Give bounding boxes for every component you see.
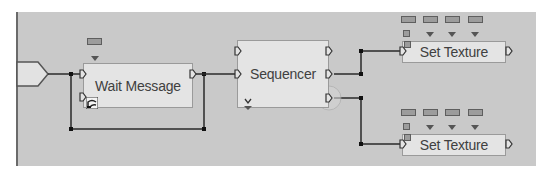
input-port[interactable] bbox=[234, 69, 242, 79]
event-trigger[interactable] bbox=[17, 62, 48, 86]
variable-link[interactable] bbox=[445, 16, 460, 23]
node-label: Sequencer bbox=[250, 66, 316, 82]
variable-link[interactable] bbox=[423, 16, 438, 23]
node-label: Wait Message bbox=[95, 78, 181, 94]
variable-link[interactable] bbox=[401, 16, 416, 23]
variable-link-arrow-icon bbox=[91, 56, 99, 61]
output-port[interactable] bbox=[189, 69, 197, 79]
variable-link[interactable] bbox=[445, 109, 460, 116]
node-set-texture-1[interactable]: Set Texture bbox=[402, 41, 506, 63]
variable-link[interactable] bbox=[423, 109, 438, 116]
variable-link-arrow-icon bbox=[448, 32, 456, 37]
node-label: Set Texture bbox=[420, 44, 488, 60]
target-link[interactable] bbox=[404, 41, 411, 48]
variable-link-arrow-icon bbox=[426, 32, 434, 37]
output-port[interactable] bbox=[325, 93, 333, 103]
variable-link[interactable] bbox=[87, 38, 102, 45]
variable-link-arrow-icon bbox=[471, 32, 479, 37]
input-port[interactable] bbox=[234, 46, 242, 56]
variable-link[interactable] bbox=[468, 16, 483, 23]
variable-link[interactable] bbox=[401, 109, 416, 116]
output-port[interactable] bbox=[325, 69, 333, 79]
variable-link-arrow-icon bbox=[471, 125, 479, 130]
output-port[interactable] bbox=[505, 139, 513, 149]
variable-link-arrow-icon bbox=[426, 125, 434, 130]
variable-link[interactable] bbox=[468, 109, 483, 116]
add-output-chevron-icon[interactable] bbox=[243, 98, 253, 112]
node-set-texture-2[interactable]: Set Texture bbox=[402, 134, 506, 156]
variable-link-arrow-icon bbox=[448, 125, 456, 130]
target-link[interactable] bbox=[403, 123, 410, 130]
input-port[interactable] bbox=[79, 69, 87, 79]
node-wait-message[interactable]: Wait Message bbox=[83, 63, 193, 108]
output-port[interactable] bbox=[325, 46, 333, 56]
output-port[interactable] bbox=[505, 46, 513, 56]
latent-action-icon bbox=[86, 97, 98, 109]
node-label: Set Texture bbox=[420, 137, 488, 153]
target-link[interactable] bbox=[403, 30, 410, 37]
target-link[interactable] bbox=[404, 134, 411, 141]
